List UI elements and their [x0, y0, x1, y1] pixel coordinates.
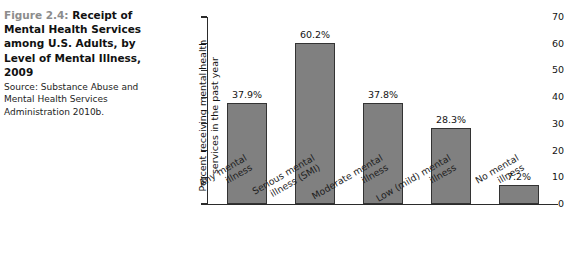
y-axis-tick-label: 60: [520, 38, 564, 49]
bar-chart: Percent receiving mental health services…: [150, 0, 564, 277]
y-axis-tick: [201, 70, 207, 71]
y-axis-tick: [201, 97, 207, 98]
bar-value-label: 37.9%: [217, 89, 277, 100]
y-axis-tick: [201, 43, 207, 44]
y-axis-tick-label: 20: [520, 145, 564, 156]
y-axis-tick-label: 30: [520, 118, 564, 129]
y-axis-tick-label: 40: [520, 91, 564, 102]
y-axis-tick: [201, 16, 207, 17]
bar: [499, 185, 539, 204]
bar-value-label: 37.8%: [353, 89, 413, 100]
y-axis-tick-label: 50: [520, 64, 564, 75]
y-axis-tick-label: 70: [520, 11, 564, 22]
bar-value-label: 28.3%: [421, 114, 481, 125]
figure-number-label: Figure 2.4:: [4, 9, 69, 21]
caption-title: Figure 2.4: Receipt of Mental Health Ser…: [4, 8, 150, 79]
y-axis-tick: [201, 150, 207, 151]
bar-value-label: 60.2%: [285, 29, 345, 40]
figure-caption: Figure 2.4: Receipt of Mental Health Ser…: [4, 8, 150, 118]
y-axis-tick: [201, 123, 207, 124]
caption-source: Source: Substance Abuse and Mental Healt…: [4, 81, 150, 118]
y-axis-tick: [201, 203, 207, 204]
